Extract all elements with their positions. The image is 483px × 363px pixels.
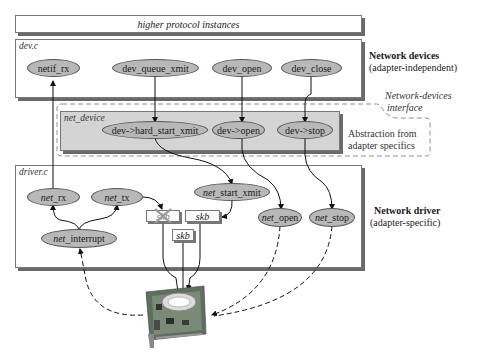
node-net-rx: net_rx bbox=[27, 188, 80, 206]
node-dev-ptr-open: dev->open bbox=[212, 121, 265, 139]
node-dev-open: dev_open bbox=[212, 59, 272, 77]
node-net-start-xmit: net_start_xmit bbox=[194, 183, 270, 201]
node-net-stop: net_stop bbox=[309, 208, 355, 227]
network-driver-label: Network driver (adapter-specific) bbox=[370, 205, 440, 229]
cross-out-icon bbox=[147, 207, 181, 223]
node-dev-close: dev_close bbox=[281, 59, 342, 77]
node-netif-rx: netif_rx bbox=[27, 59, 80, 77]
node-dev-queue-xmit: dev_queue_xmit bbox=[112, 59, 199, 77]
node-dev-ptr-stop: dev->stop bbox=[277, 121, 333, 139]
node-hard-start-xmit: dev->hard_start_xmit bbox=[102, 121, 208, 139]
skb-buffer: skb bbox=[172, 229, 194, 241]
network-card-icon bbox=[142, 282, 212, 350]
node-net-tx: net_tx bbox=[91, 188, 143, 206]
interface-label: Network-devices interface bbox=[385, 90, 452, 114]
abstraction-label: Abstraction from adapter specifics bbox=[348, 128, 417, 152]
network-devices-label: Network devices (adapter-independent) bbox=[369, 50, 457, 74]
skb-buffer: skb bbox=[185, 210, 220, 222]
node-net-open: net_open bbox=[258, 208, 302, 227]
skb-buffer-freed: skb bbox=[146, 210, 180, 222]
node-net-interrupt: net_interrupt bbox=[41, 229, 117, 248]
